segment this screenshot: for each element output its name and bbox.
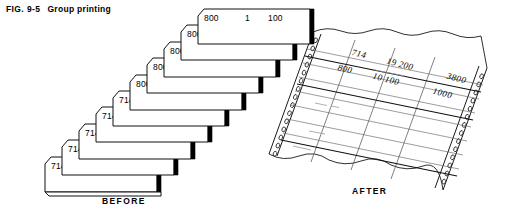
punch-card-thickness [310, 9, 314, 44]
caption-after: AFTER [352, 186, 387, 196]
punch-card-outline [192, 8, 332, 103]
punch-card: 8001100 [192, 8, 314, 42]
punch-card-face [198, 9, 310, 44]
